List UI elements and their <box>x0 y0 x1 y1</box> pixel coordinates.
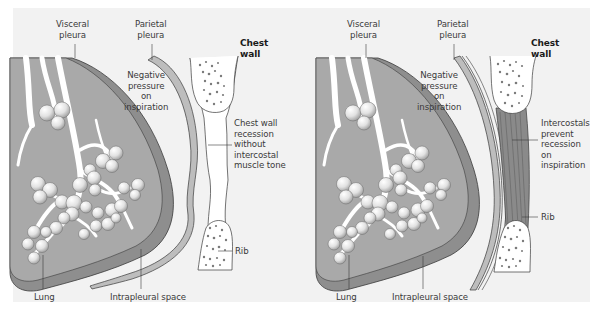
label-line: Intercostals <box>541 118 590 129</box>
label-lung: Lung <box>336 292 357 303</box>
label-line: pleura <box>56 30 89 41</box>
label-negative-pressure: Negative pressure on inspiration <box>417 70 461 112</box>
label-line: Negative <box>124 70 168 81</box>
label-line: Chest <box>531 38 559 49</box>
label-line: on <box>541 150 590 161</box>
label-line: inspiration <box>124 102 168 113</box>
anatomy-illustration <box>0 0 602 322</box>
label-line: prevent <box>541 129 590 140</box>
label-parietal-pleura: Parietal pleura <box>437 19 469 40</box>
label-rib: Rib <box>541 212 555 223</box>
label-line: Negative <box>417 70 461 81</box>
label-line: intercostal <box>234 150 286 161</box>
label-line: Chest wall <box>234 118 286 129</box>
rib-lower <box>494 221 531 273</box>
rib-lower <box>198 221 233 271</box>
label-line: pleura <box>135 30 167 41</box>
label-intrapleural-space: Intrapleural space <box>392 292 468 303</box>
label-intrapleural-space: Intrapleural space <box>110 292 186 303</box>
label-line: Parietal <box>135 19 167 30</box>
label-visceral-pleura: Visceral pleura <box>56 19 89 40</box>
label-line: without <box>234 139 286 150</box>
label-lung: Lung <box>34 292 55 303</box>
label-chest-wall: Chest wall <box>240 38 268 60</box>
rib-upper <box>490 56 536 114</box>
label-line: wall <box>240 49 268 60</box>
label-chest-wall: Chest wall <box>531 38 559 60</box>
label-wall-annotation: Intercostals prevent recession on inspir… <box>541 118 590 171</box>
label-line: Chest <box>240 38 268 49</box>
label-line: inspiration <box>417 102 461 113</box>
label-line: Visceral <box>347 19 380 30</box>
label-line: pressure <box>417 81 461 92</box>
label-line: pleura <box>437 30 469 41</box>
label-line: muscle tone <box>234 160 286 171</box>
label-line: recession <box>234 129 286 140</box>
label-rib: Rib <box>235 246 249 257</box>
label-line: wall <box>531 49 559 60</box>
label-line: Parietal <box>437 19 469 30</box>
label-parietal-pleura: Parietal pleura <box>135 19 167 40</box>
label-line: on <box>417 91 461 102</box>
label-line: pleura <box>347 30 380 41</box>
label-line: on <box>124 91 168 102</box>
label-line: pressure <box>124 81 168 92</box>
label-line: recession <box>541 139 590 150</box>
label-visceral-pleura: Visceral pleura <box>347 19 380 40</box>
label-line: Visceral <box>56 19 89 30</box>
label-wall-annotation: Chest wall recession without intercostal… <box>234 118 286 171</box>
label-negative-pressure: Negative pressure on inspiration <box>124 70 168 112</box>
label-line: inspiration <box>541 160 590 171</box>
